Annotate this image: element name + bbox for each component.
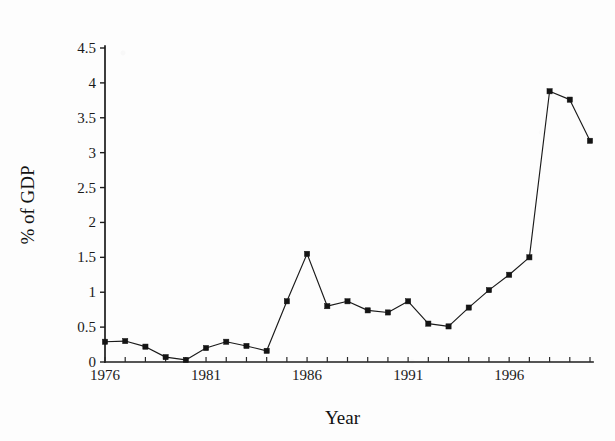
line-chart: 00.511.522.533.544.519761981198619911996… — [0, 0, 615, 441]
data-point-marker — [244, 343, 249, 348]
y-tick-label: 1 — [89, 284, 97, 300]
y-tick-label: 3.5 — [77, 110, 96, 126]
data-point-marker — [365, 308, 370, 313]
data-point-marker — [102, 339, 107, 344]
x-tick-label: 1981 — [191, 367, 221, 383]
data-point-marker — [284, 299, 289, 304]
series-line-gdp — [105, 91, 590, 360]
y-tick-label: 4.5 — [77, 40, 96, 56]
data-point-marker — [325, 304, 330, 309]
data-point-marker — [345, 299, 350, 304]
data-point-marker — [507, 272, 512, 277]
x-tick-label: 1991 — [393, 367, 423, 383]
data-point-marker — [567, 97, 572, 102]
data-point-marker — [426, 321, 431, 326]
data-point-marker — [264, 348, 269, 353]
data-point-marker — [224, 339, 229, 344]
data-point-marker — [203, 345, 208, 350]
y-axis-title: % of GDP — [17, 165, 38, 244]
x-tick-label: 1986 — [292, 367, 323, 383]
data-point-marker — [486, 288, 491, 293]
data-point-marker — [466, 305, 471, 310]
data-point-marker — [304, 251, 309, 256]
data-point-marker — [547, 89, 552, 94]
chart-page: 00.511.522.533.544.519761981198619911996… — [0, 0, 615, 441]
data-point-marker — [163, 355, 168, 360]
y-tick-label: 3 — [89, 145, 97, 161]
x-axis-title: Year — [325, 407, 361, 428]
data-point-marker — [385, 310, 390, 315]
data-point-marker — [123, 338, 128, 343]
y-tick-label: 1.5 — [77, 249, 96, 265]
data-point-marker — [446, 324, 451, 329]
y-tick-label: 2 — [89, 214, 97, 230]
data-point-marker — [183, 357, 188, 362]
data-point-marker — [587, 138, 592, 143]
y-tick-label: 4 — [89, 75, 97, 91]
y-tick-label: 0.5 — [77, 319, 96, 335]
data-point-marker — [527, 255, 532, 260]
x-tick-label: 1976 — [90, 367, 121, 383]
data-point-marker — [143, 344, 148, 349]
x-tick-label: 1996 — [494, 367, 525, 383]
data-point-marker — [406, 299, 411, 304]
y-tick-label: 2.5 — [77, 180, 96, 196]
